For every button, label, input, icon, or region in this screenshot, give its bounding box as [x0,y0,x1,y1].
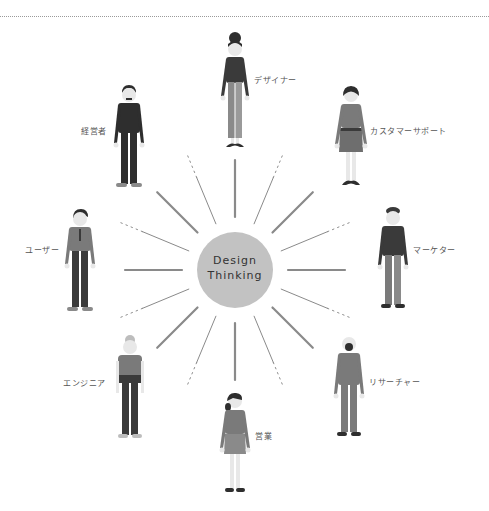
persona-label-user: ユーザー [25,244,59,255]
marketer-figure [378,207,409,308]
engineer-figure [116,335,144,438]
sales-figure [220,393,251,492]
persona-label-engineer: エンジニア [63,377,106,388]
hub-label-line1: Design [197,253,273,268]
persona-label-executive: 経営者 [81,125,107,136]
persona-label-sales: 営業 [255,430,272,441]
executive-figure [114,85,145,187]
persona-label-researcher: リサーチャー [369,376,420,387]
persona-label-marketer: マーケター [413,244,456,255]
designer-figure [221,32,250,147]
ray-solid-se [273,308,313,348]
ray-solid-ne [273,192,313,232]
customer-support-figure [335,86,368,185]
user-figure [65,209,96,311]
researcher-figure [334,337,365,436]
hub-label: Design Thinking [197,253,273,283]
persona-label-designer: デザイナー [254,74,297,85]
ray-solid-nw [157,192,197,232]
hub-label-line2: Thinking [197,268,273,283]
ray-solid-sw [157,308,197,348]
persona-label-customer-support: カスタマーサポート [370,125,447,136]
